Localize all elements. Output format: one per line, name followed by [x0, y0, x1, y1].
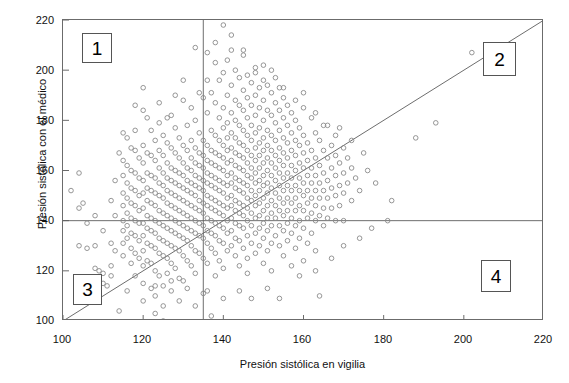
data-point: [249, 138, 254, 143]
data-point: [253, 231, 258, 236]
data-point: [181, 143, 186, 148]
data-point: [253, 251, 258, 256]
data-point: [129, 246, 134, 251]
data-point: [221, 191, 226, 196]
data-point: [189, 105, 194, 110]
data-point: [289, 231, 294, 236]
data-point: [261, 196, 266, 201]
data-point: [221, 70, 226, 75]
data-point: [321, 148, 326, 153]
data-point: [373, 181, 378, 186]
data-point: [125, 196, 130, 201]
data-point: [233, 136, 238, 141]
data-point: [273, 178, 278, 183]
data-point: [245, 233, 250, 238]
data-point: [205, 241, 210, 246]
data-point: [309, 211, 314, 216]
data-point: [193, 193, 198, 198]
data-point: [269, 211, 274, 216]
data-point: [329, 186, 334, 191]
data-point: [285, 238, 290, 243]
data-point: [229, 171, 234, 176]
data-point: [233, 253, 238, 258]
data-point: [241, 53, 246, 58]
data-point: [205, 78, 210, 83]
data-point: [249, 211, 254, 216]
data-point: [249, 223, 254, 228]
data-point: [297, 126, 302, 131]
data-point: [181, 78, 186, 83]
data-point: [117, 309, 122, 314]
data-point: [189, 156, 194, 161]
data-point: [205, 143, 210, 148]
data-point: [185, 123, 190, 128]
data-point: [277, 146, 282, 151]
data-point: [269, 113, 274, 118]
data-point: [301, 90, 306, 95]
data-point: [165, 141, 170, 146]
data-point: [149, 153, 154, 158]
data-point: [233, 118, 238, 123]
data-point: [293, 183, 298, 188]
data-point: [265, 128, 270, 133]
data-point: [389, 198, 394, 203]
data-point: [281, 176, 286, 181]
data-point: [145, 116, 150, 121]
data-point: [137, 156, 142, 161]
data-point: [265, 181, 270, 186]
data-point: [245, 183, 250, 188]
data-point: [293, 246, 298, 251]
data-point: [253, 146, 258, 151]
data-point: [189, 138, 194, 143]
data-point: [341, 243, 346, 248]
data-point: [213, 251, 218, 256]
data-point: [269, 68, 274, 73]
data-point: [125, 289, 130, 294]
data-point: [165, 116, 170, 121]
data-point: [261, 221, 266, 226]
data-point: [433, 121, 438, 126]
data-point: [257, 85, 262, 90]
data-point: [161, 171, 166, 176]
data-point: [129, 261, 134, 266]
data-point: [285, 208, 290, 213]
data-point: [293, 208, 298, 213]
data-point: [165, 161, 170, 166]
data-point: [229, 181, 234, 186]
data-point: [249, 153, 254, 158]
data-point: [173, 151, 178, 156]
data-point: [125, 223, 130, 228]
data-point: [181, 253, 186, 258]
data-point: [217, 259, 222, 264]
data-point: [253, 113, 258, 118]
data-point: [221, 23, 226, 28]
data-point: [313, 248, 318, 253]
data-point: [93, 213, 98, 218]
data-point: [249, 80, 254, 85]
x-tick-label-200: 200: [446, 333, 480, 345]
data-point: [209, 90, 214, 95]
data-point: [317, 294, 322, 299]
data-point: [177, 299, 182, 304]
data-point: [165, 271, 170, 276]
data-point: [281, 95, 286, 100]
data-point: [173, 126, 178, 131]
data-point: [369, 226, 374, 231]
data-point: [161, 183, 166, 188]
y-tick-label-100: 100: [20, 314, 54, 326]
data-point: [161, 196, 166, 201]
data-point: [153, 231, 158, 236]
data-point: [305, 241, 310, 246]
data-point: [153, 176, 158, 181]
data-point: [121, 203, 126, 208]
data-point: [233, 98, 238, 103]
data-point: [297, 143, 302, 148]
data-point: [113, 248, 118, 253]
data-point: [229, 146, 234, 151]
data-point: [285, 156, 290, 161]
data-point: [261, 63, 266, 68]
data-point: [301, 105, 306, 110]
data-point: [345, 156, 350, 161]
data-point: [237, 289, 242, 294]
scatter-canvas: [63, 20, 543, 320]
